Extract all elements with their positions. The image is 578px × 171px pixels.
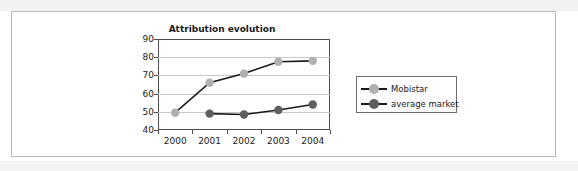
- series-plot: [12, 12, 557, 158]
- legend-item: average market: [361, 96, 459, 112]
- clipped-caption-text: [0, 0, 578, 7]
- line-chart: Attribution evolution 405060708090 20002…: [12, 12, 557, 158]
- data-point-marker: [171, 109, 179, 117]
- legend-item: Mobistar: [361, 81, 428, 97]
- legend-label: average market: [391, 99, 459, 109]
- data-point-marker: [309, 57, 317, 65]
- page-bottom-band: [0, 161, 578, 171]
- data-point-marker: [205, 78, 213, 86]
- data-point-marker: [274, 106, 282, 114]
- figure-page: Attribution evolution 405060708090 20002…: [0, 0, 578, 171]
- legend-marker-icon: [361, 83, 387, 95]
- series-line: [210, 105, 313, 115]
- data-point-marker: [274, 58, 282, 66]
- legend-label: Mobistar: [391, 84, 428, 94]
- legend-marker-icon: [361, 98, 387, 110]
- data-point-marker: [309, 100, 317, 108]
- data-point-marker: [205, 109, 213, 117]
- series-line: [175, 61, 313, 113]
- data-point-marker: [240, 110, 248, 118]
- chart-legend: Mobistaraverage market: [356, 76, 457, 113]
- data-point-marker: [240, 69, 248, 77]
- figure-frame: Attribution evolution 405060708090 20002…: [11, 11, 556, 157]
